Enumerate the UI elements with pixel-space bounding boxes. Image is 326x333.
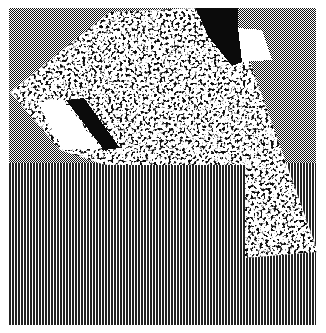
dithered-bitmap — [0, 0, 326, 333]
